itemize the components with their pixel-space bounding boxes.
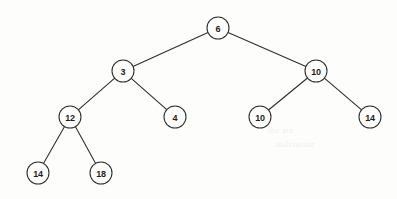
tree-edge-n1-n3 bbox=[78, 78, 114, 110]
tree-edge-n2-n5 bbox=[269, 78, 308, 110]
tree-node[interactable]: 3 bbox=[112, 60, 134, 82]
tree-node[interactable]: 12 bbox=[59, 106, 81, 128]
tree-edge-n0-n2 bbox=[228, 32, 306, 66]
tree-edge-n3-n8 bbox=[75, 127, 95, 164]
edge-layer bbox=[43, 32, 361, 163]
binary-tree-figure: 631012410141418 the areutilization bbox=[0, 0, 397, 199]
tree-edge-n0-n1 bbox=[133, 33, 208, 67]
tree-node[interactable]: 6 bbox=[207, 17, 229, 39]
tree-edge-n2-n6 bbox=[324, 78, 361, 110]
tree-node[interactable]: 14 bbox=[359, 106, 381, 128]
tree-canvas: 631012410141418 bbox=[0, 0, 397, 199]
tree-edge-n1-n4 bbox=[131, 78, 167, 109]
node-label: 3 bbox=[121, 67, 126, 77]
node-label: 12 bbox=[65, 113, 75, 123]
node-label: 14 bbox=[33, 169, 43, 179]
node-label: 10 bbox=[311, 67, 321, 77]
node-label: 18 bbox=[96, 169, 106, 179]
node-label: 6 bbox=[216, 24, 221, 34]
tree-node[interactable]: 10 bbox=[249, 106, 271, 128]
node-label: 14 bbox=[365, 113, 375, 123]
tree-node[interactable]: 14 bbox=[27, 162, 49, 184]
tree-edge-n3-n7 bbox=[43, 127, 64, 164]
node-label: 10 bbox=[255, 113, 265, 123]
node-layer: 631012410141418 bbox=[27, 17, 381, 184]
node-label: 4 bbox=[173, 113, 178, 123]
tree-node[interactable]: 4 bbox=[164, 106, 186, 128]
tree-node[interactable]: 18 bbox=[90, 162, 112, 184]
tree-node[interactable]: 10 bbox=[305, 60, 327, 82]
